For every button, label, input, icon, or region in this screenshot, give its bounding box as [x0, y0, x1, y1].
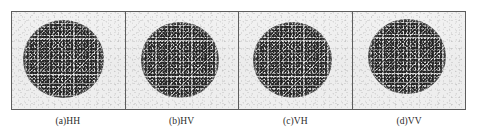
- figure-container: (a)HH (b)HV (c)VH (d)VV: [0, 0, 477, 140]
- speckle-disc-vh: [253, 22, 332, 98]
- panel-caption-hv: (b)HV: [125, 114, 239, 136]
- speckle-disc-vv: [368, 19, 446, 94]
- panel-hv: [125, 12, 239, 109]
- panel-caption-vv: (d)VV: [352, 114, 466, 136]
- panel-vv: [352, 12, 466, 109]
- panel-strip: [11, 11, 466, 110]
- panel-caption-vh: (c)VH: [239, 114, 353, 136]
- speckle-disc-hh: [23, 20, 104, 98]
- speckle-disc-hv: [141, 22, 220, 98]
- caption-row: (a)HH (b)HV (c)VH (d)VV: [11, 114, 466, 136]
- panel-caption-hh: (a)HH: [11, 114, 125, 136]
- panel-vh: [238, 12, 352, 109]
- panel-hh: [12, 12, 125, 109]
